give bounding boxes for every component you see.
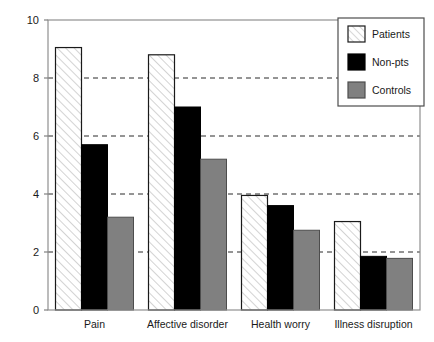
- legend-swatch-patients: [348, 26, 365, 42]
- y-axis: 0246810: [27, 14, 48, 316]
- x-axis-category-label: Affective disorder: [147, 318, 228, 330]
- bar-chart-figure: 0246810 PainAffective disorderHealth wor…: [0, 0, 434, 342]
- bar: [294, 230, 320, 310]
- bar: [335, 222, 361, 310]
- y-axis-tick-label: 4: [33, 188, 39, 200]
- chart-canvas: 0246810 PainAffective disorderHealth wor…: [0, 0, 434, 342]
- x-axis: PainAffective disorderHealth worryIllnes…: [84, 318, 413, 330]
- legend-label: Controls: [372, 84, 411, 96]
- bar: [201, 159, 227, 310]
- y-axis-tick-label: 0: [33, 304, 39, 316]
- y-axis-tick-label: 6: [33, 130, 39, 142]
- x-axis-category-label: Pain: [84, 318, 105, 330]
- bar: [361, 256, 387, 310]
- y-axis-tick-label: 8: [33, 72, 39, 84]
- bar: [268, 206, 294, 310]
- bar: [387, 258, 413, 310]
- legend-label: Patients: [372, 28, 410, 40]
- bar: [149, 55, 175, 310]
- x-axis-category-label: Illness disruption: [334, 318, 412, 330]
- y-axis-tick-label: 10: [27, 14, 39, 26]
- y-axis-tick-label: 2: [33, 246, 39, 258]
- bar: [242, 195, 268, 310]
- legend-label: Non-pts: [372, 56, 409, 68]
- x-axis-category-label: Health worry: [251, 318, 311, 330]
- bar: [175, 107, 201, 310]
- legend-swatch-non-pts: [348, 54, 365, 70]
- bar: [82, 145, 108, 310]
- legend-swatch-controls: [348, 82, 365, 98]
- chart-legend: PatientsNon-ptsControls: [338, 18, 424, 106]
- bar: [56, 48, 82, 310]
- bar: [108, 217, 134, 310]
